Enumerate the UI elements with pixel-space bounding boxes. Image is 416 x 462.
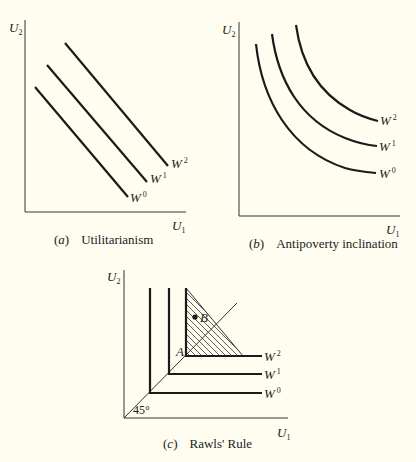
panel-b-caption: bAntipoverty inclination [249,237,398,250]
panel-b-curve-w0 [256,44,376,173]
panel-c-point-a-label: A [176,345,184,358]
panel-c-45-degree-label: 45° [133,404,150,416]
panel-b-curve-w2 [296,25,378,121]
panel-b-y-axis-label: U2 [222,23,235,39]
panel-a-caption: aUtilitarianism [54,233,153,246]
panel-c-45-degree-line [124,303,237,418]
panel-c-point-b-dot [192,314,197,319]
panel-b-w0-label: W0 [379,167,396,180]
panel-b-w2-label: W2 [380,114,397,127]
panel-a-x-axis-label: U1 [172,219,185,235]
panel-b-graph [239,22,400,216]
panel-c-hatched-region [186,292,250,356]
panel-c-point-b-label: B [200,311,208,324]
panel-b-w1-label: W1 [379,140,396,153]
panel-c-x-axis-label: U1 [277,426,290,442]
panel-c-curve-w1 [169,288,262,374]
panel-a-w1-label: W1 [150,172,167,185]
panel-c-curve-w0 [150,288,262,393]
panel-a-w0-label: W0 [130,191,147,204]
panel-c-w1-label: W1 [264,368,281,381]
panel-c-caption: cRawls' Rule [163,437,252,450]
figure-canvas [0,0,416,462]
panel-c-y-axis-label: U2 [107,270,120,286]
panel-c-w2-label: W2 [264,350,281,363]
panel-c-w0-label: W0 [264,387,281,400]
panel-a-w2-label: W2 [171,157,188,170]
panel-a-y-axis-label: U2 [9,21,22,37]
